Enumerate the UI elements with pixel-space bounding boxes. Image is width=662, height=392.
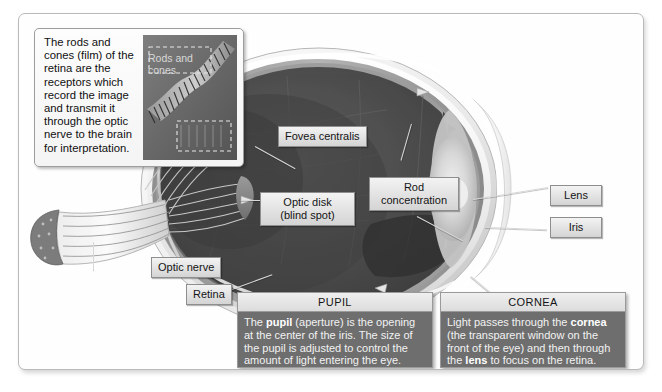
label-optic-disk-line2: (blind spot): [267, 209, 348, 222]
rods-and-cones-inset[interactable]: The rods and cones (film) of the retina …: [34, 28, 244, 167]
panel-cornea-title: CORNEA: [441, 293, 625, 312]
label-iris-text: Iris: [569, 221, 584, 233]
panel-pupil[interactable]: PUPIL The pupil (aperture) is the openin…: [237, 292, 433, 368]
inset-description-text: The rods and cones (film) of the retina …: [44, 36, 140, 155]
label-lens-text: Lens: [564, 189, 588, 201]
panel-cornea[interactable]: CORNEA Light passes through the cornea (…: [440, 292, 626, 368]
label-fovea-centralis-text: Fovea centralis: [285, 130, 360, 142]
label-optic-nerve[interactable]: Optic nerve: [151, 257, 221, 278]
panel-pupil-body: The pupil (aperture) is the opening at t…: [238, 312, 432, 370]
panel-pupil-title: PUPIL: [238, 293, 432, 312]
leader-optic-nerve: [93, 242, 94, 270]
label-optic-disk[interactable]: Optic disk (blind spot): [260, 192, 355, 226]
inset-photo-label: Rods and cones: [148, 52, 210, 76]
diagram-frame: Fovea centralis Optic disk (blind spot) …: [18, 13, 644, 370]
label-optic-disk-line1: Optic disk: [267, 196, 348, 209]
label-optic-nerve-text: Optic nerve: [158, 261, 214, 273]
label-rod-concentration-line2: concentration: [376, 194, 452, 207]
label-retina[interactable]: Retina: [186, 284, 232, 305]
label-fovea-centralis[interactable]: Fovea centralis: [278, 126, 367, 147]
label-retina-text: Retina: [193, 288, 225, 300]
label-rod-concentration-line1: Rod: [376, 181, 452, 194]
panel-cornea-body: Light passes through the cornea (the tra…: [441, 312, 625, 370]
label-lens[interactable]: Lens: [550, 185, 602, 206]
label-rod-concentration[interactable]: Rod concentration: [369, 177, 459, 211]
inset-micrograph: Rods and cones: [143, 35, 237, 160]
label-iris[interactable]: Iris: [550, 217, 602, 238]
diagram-page: Fovea centralis Optic disk (blind spot) …: [0, 0, 662, 392]
